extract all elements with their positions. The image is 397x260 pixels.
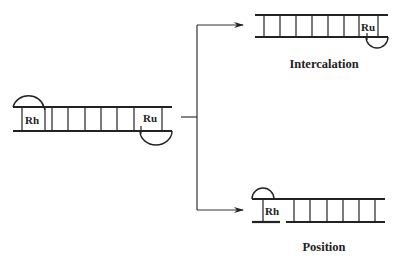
ru-label: Ru — [143, 112, 157, 124]
ru-complex-arc-icon — [140, 131, 172, 145]
rh-label: Rh — [265, 205, 279, 217]
rh-label: Rh — [25, 114, 39, 126]
diagram-svg: Rh Ru — [0, 0, 397, 260]
rh-complex-arc-icon — [252, 188, 274, 199]
position-label: Position — [302, 240, 345, 254]
position-dna-duplex: Rh — [252, 188, 385, 222]
diagram-canvas: Rh Ru — [0, 0, 397, 260]
branch-arrows — [181, 25, 243, 210]
ru-complex-arc-icon — [366, 37, 388, 48]
rh-complex-arc-icon — [13, 96, 44, 107]
intercalation-dna-duplex: Ru — [255, 15, 388, 48]
base-pair-rungs — [263, 199, 375, 222]
left-dna-duplex: Rh Ru — [13, 96, 172, 145]
intercalation-label: Intercalation — [289, 57, 358, 71]
ru-label: Ru — [361, 21, 375, 33]
